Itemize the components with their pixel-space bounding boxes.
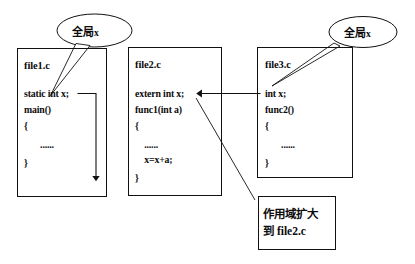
code-line-file1-1: main() — [24, 104, 51, 115]
callout-right-suffix: x — [366, 29, 371, 39]
code-line-file3-1: func2() — [265, 104, 294, 115]
code-line-file3-0: int x; — [265, 88, 286, 99]
code-line-file1-2: { — [24, 120, 28, 131]
file-label-file2: file2.c — [135, 59, 161, 70]
callout-right-text: 全局 — [344, 27, 366, 39]
file-label-file1: file1.c — [24, 60, 50, 71]
file-label-file3: file3.c — [265, 59, 291, 70]
code-line-file1-3: ...... — [24, 139, 54, 150]
callout-left-suffix: x — [94, 28, 99, 38]
callout-left-text: 全局 — [72, 26, 94, 38]
code-line-file2-0: extern int x; — [135, 88, 184, 99]
diagram-canvas: file1.c static int x; main() { ...... } … — [0, 0, 415, 264]
code-line-file1-4: } — [24, 157, 28, 168]
code-line-file3-2: { — [265, 120, 269, 131]
code-line-file2-3: ...... — [135, 139, 158, 150]
code-line-file2-4: x=x+a; — [135, 154, 172, 165]
code-line-file2-1: func1(int a) — [135, 104, 182, 115]
callout-label-right: 全局x — [344, 24, 371, 40]
code-line-file1-0: static int x; — [24, 88, 69, 99]
code-line-file3-4: } — [265, 157, 269, 168]
callout-label-left: 全局x — [72, 23, 99, 39]
code-line-file2-2: { — [135, 120, 139, 131]
code-line-file3-3: ...... — [265, 139, 295, 150]
code-line-file2-5: } — [135, 172, 139, 183]
note-line-2: 到 file2.c — [263, 222, 306, 238]
note-line-1: 作用域扩大 — [263, 205, 318, 221]
